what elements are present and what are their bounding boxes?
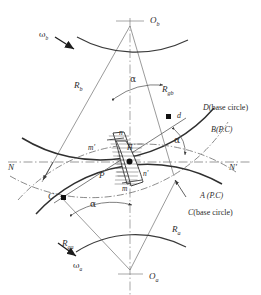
label-radius-gb: Rgb xyxy=(162,85,174,96)
angle-alpha-bottom xyxy=(73,202,132,214)
label-point-n-prime: n' xyxy=(143,170,148,178)
gear-meshing-diagram: Ob ωb Rb Rgb α α α D(base circle) B(P.C)… xyxy=(0,0,261,295)
label-line-N-right: N' xyxy=(229,163,237,172)
label-alpha-bottom: α xyxy=(90,200,96,209)
angle-alpha-top xyxy=(115,85,163,98)
Rb-leader xyxy=(43,162,53,180)
label-omega-a: ωa xyxy=(73,262,82,272)
label-curve-A: A (P.C) xyxy=(200,192,223,200)
label-line-N-left: N xyxy=(8,163,14,172)
lower-inner-arc xyxy=(76,235,186,252)
label-curve-C: C(base circle) xyxy=(188,209,233,217)
label-point-H: H xyxy=(127,144,132,152)
Ra-leader xyxy=(175,180,186,197)
label-radius-a: Ra xyxy=(172,225,181,236)
label-radius-ga: Rga xyxy=(62,239,74,250)
label-point-P: P xyxy=(99,171,105,180)
label-center-lower: Oa xyxy=(149,272,159,283)
point-P-marker xyxy=(127,159,133,165)
label-omega-b: ωb xyxy=(39,31,48,41)
label-point-C: C xyxy=(48,192,54,201)
label-curve-D: D(base circle) xyxy=(203,104,248,112)
label-point-d: d xyxy=(177,112,181,120)
label-alpha-right: α xyxy=(174,136,180,145)
label-point-m: m xyxy=(122,185,127,193)
label-point-m-prime: m' xyxy=(88,144,95,152)
label-alpha-top: α xyxy=(130,75,136,84)
label-radius-b: Rb xyxy=(74,81,83,92)
point-C-marker xyxy=(61,195,66,200)
omega-b-arrow xyxy=(55,37,74,49)
label-point-n: n xyxy=(119,129,123,137)
label-curve-B: B(P.C) xyxy=(211,126,232,134)
lower-radial-lines xyxy=(60,180,176,270)
label-center-upper: Ob xyxy=(150,16,160,27)
point-d-marker xyxy=(166,114,171,119)
upper-inner-arc xyxy=(77,37,188,52)
